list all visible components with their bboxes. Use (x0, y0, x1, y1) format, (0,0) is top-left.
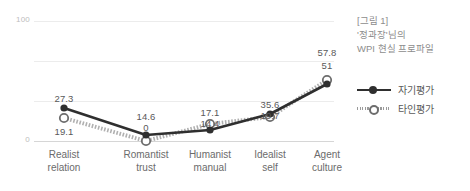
value-label-other-0: 19.1 (55, 126, 74, 137)
marker-other-0 (60, 114, 68, 122)
x-label-0: Realist relation (21, 148, 107, 174)
legend-label-self: 자기평가 (398, 82, 434, 97)
figure-subject: '정과장'님의 (357, 28, 465, 42)
legend-marker-other-icon (357, 103, 391, 115)
figure-caption: [그림 1] '정과장'님의 WPI 현실 프로파일 (357, 14, 465, 56)
legend-label-other: 타인평가 (398, 101, 434, 116)
x-label-4-line1: Agent (284, 148, 370, 161)
x-label-4-line2: culture (284, 161, 370, 174)
value-label-other-2: 14.4 (201, 118, 220, 129)
series-line-self (64, 84, 327, 135)
marker-self-0 (60, 104, 67, 111)
x-label-0-line2: relation (21, 161, 107, 174)
value-label-self-0: 27.3 (55, 93, 74, 104)
legend-item-other[interactable]: 타인평가 (357, 99, 467, 118)
x-label-4: Agent culture (284, 148, 370, 174)
legend-item-self[interactable]: 자기평가 (357, 80, 467, 99)
x-label-0-line1: Realist (21, 148, 107, 161)
chart-legend: 자기평가 타인평가 (357, 80, 467, 118)
value-label-self-1: 14.6 (137, 111, 156, 122)
value-label-other-3: 19.7 (261, 110, 280, 121)
value-label-other-1: 0 (143, 122, 148, 133)
figure-description: WPI 현실 프로파일 (357, 42, 465, 56)
value-label-self-3: 35.6 (261, 99, 280, 110)
figure-number: [그림 1] (357, 14, 465, 28)
value-label-self-4: 57.8 (318, 47, 337, 58)
value-label-other-4: 51 (322, 60, 333, 71)
wpi-profile-chart: 100 0 27.3 14.6 17.1 35.6 57.8 19.1 0 14… (0, 0, 470, 191)
value-label-self-2: 17.1 (201, 107, 220, 118)
marker-self-4 (323, 80, 330, 87)
legend-marker-self-icon (357, 84, 391, 96)
